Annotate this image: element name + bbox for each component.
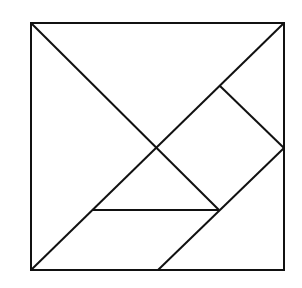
- line-diag-top-left: [31, 23, 219, 210]
- tangram-lines: [31, 23, 284, 270]
- tangram-diagram: [0, 0, 302, 288]
- line-square-edge: [220, 86, 284, 148]
